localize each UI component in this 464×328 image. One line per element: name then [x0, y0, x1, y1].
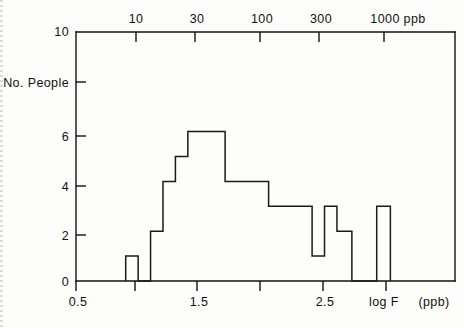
chart-canvas: 10 30 100 300 1000 ppb 10 No. People 6 4… [0, 0, 464, 328]
y-tick-label-0: 0 [62, 275, 69, 289]
top-tick-label-1000-ppb: 1000 ppb [370, 12, 425, 26]
y-axis-title: No. People [3, 76, 69, 90]
top-axis-ticks [136, 32, 384, 42]
y-axis-ticks [76, 82, 86, 235]
top-tick-label-30: 30 [190, 12, 205, 26]
top-tick-label-300: 300 [310, 12, 332, 26]
top-tick-label-100: 100 [251, 12, 273, 26]
y-tick-label-4: 4 [62, 180, 69, 194]
histogram-figure: 10 30 100 300 1000 ppb 10 No. People 6 4… [0, 0, 464, 328]
histogram-outline [126, 132, 391, 281]
x-tick-label-1-5: 1.5 [190, 295, 209, 309]
x-axis-ticks [76, 281, 386, 291]
y-axis-tick-labels: 10 No. People 6 4 2 0 [3, 25, 69, 289]
top-tick-label-10: 10 [129, 12, 144, 26]
x-tick-label-0-5: 0.5 [69, 295, 88, 309]
y-tick-label-2: 2 [62, 229, 69, 243]
x-axis-units-label: (ppb) [418, 295, 449, 309]
x-axis-title: log F [369, 295, 399, 309]
x-tick-label-2-5: 2.5 [316, 295, 335, 309]
top-axis-tick-labels: 10 30 100 300 1000 ppb [129, 12, 426, 26]
y-tick-label-10: 10 [54, 25, 69, 39]
x-axis-tick-labels: 0.5 1.5 2.5 log F (ppb) [69, 295, 450, 309]
y-tick-label-6: 6 [62, 130, 69, 144]
